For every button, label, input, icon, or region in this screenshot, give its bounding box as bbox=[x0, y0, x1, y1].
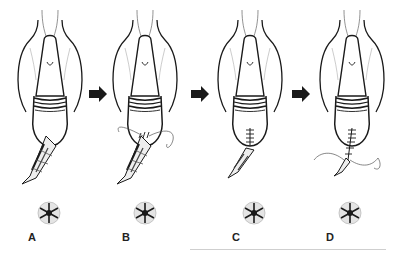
figure-d-illustration bbox=[302, 0, 394, 190]
step-arrow-icon bbox=[292, 86, 310, 102]
step-label-c: C bbox=[232, 231, 240, 243]
cross-section-b-icon bbox=[132, 200, 158, 226]
figure-c-illustration bbox=[200, 0, 300, 190]
bottom-rule bbox=[190, 249, 386, 250]
step-label-b: B bbox=[122, 231, 130, 243]
step-label-a: A bbox=[28, 231, 36, 243]
step-arrow-icon bbox=[89, 86, 107, 102]
cross-section-a-icon bbox=[36, 200, 62, 226]
surgical-diagram: A B C D bbox=[0, 0, 394, 253]
cross-section-c-icon bbox=[241, 200, 267, 226]
step-label-d: D bbox=[326, 231, 334, 243]
figure-b-illustration bbox=[95, 0, 195, 190]
figure-a-illustration bbox=[0, 0, 100, 190]
cross-section-d-icon bbox=[337, 200, 363, 226]
step-arrow-icon bbox=[191, 86, 209, 102]
